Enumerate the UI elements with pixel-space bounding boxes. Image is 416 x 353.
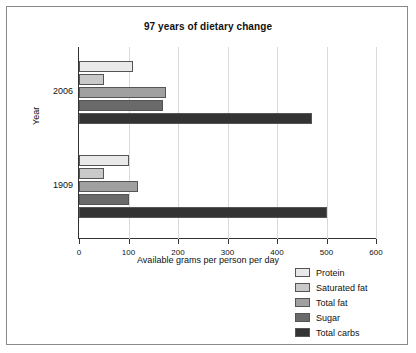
legend-label: Protein xyxy=(316,268,345,278)
legend-item[interactable]: Sugar xyxy=(295,310,368,325)
plot-area: 0100200300400500600 20061909 xyxy=(79,47,376,239)
bar xyxy=(79,61,133,72)
x-tick xyxy=(376,239,377,244)
legend-label: Sugar xyxy=(316,313,340,323)
bar xyxy=(79,194,129,205)
legend-swatch xyxy=(295,313,310,322)
x-tick xyxy=(277,239,278,244)
gridline xyxy=(376,47,377,239)
bar xyxy=(79,207,327,218)
legend-label: Total carbs xyxy=(316,328,360,338)
legend-swatch xyxy=(295,328,310,337)
legend-label: Saturated fat xyxy=(316,283,368,293)
x-tick xyxy=(228,239,229,244)
x-tick xyxy=(178,239,179,244)
x-tick-label: 500 xyxy=(320,248,333,257)
legend-item[interactable]: Saturated fat xyxy=(295,280,368,295)
bar xyxy=(79,74,104,85)
legend-swatch xyxy=(295,283,310,292)
category-label: 2006 xyxy=(27,86,73,96)
x-tick-label: 600 xyxy=(369,248,382,257)
x-tick xyxy=(129,239,130,244)
legend-label: Total fat xyxy=(316,298,348,308)
legend-item[interactable]: Protein xyxy=(295,265,368,280)
bar xyxy=(79,113,312,124)
x-tick xyxy=(79,239,80,244)
y-axis-label: Year xyxy=(31,107,41,125)
bar xyxy=(79,155,129,166)
legend-swatch xyxy=(295,268,310,277)
x-tick-label: 200 xyxy=(171,248,184,257)
x-tick-label: 100 xyxy=(122,248,135,257)
x-tick-label: 300 xyxy=(221,248,234,257)
category-label: 1909 xyxy=(27,180,73,190)
bar xyxy=(79,168,104,179)
x-tick-label: 0 xyxy=(77,248,81,257)
x-tick xyxy=(327,239,328,244)
gridline xyxy=(327,47,328,239)
legend-item[interactable]: Total carbs xyxy=(295,325,368,340)
bar xyxy=(79,181,138,192)
legend-swatch xyxy=(295,298,310,307)
chart-title: 97 years of dietary change xyxy=(7,21,409,32)
bar xyxy=(79,87,166,98)
chart-legend: ProteinSaturated fatTotal fatSugarTotal … xyxy=(295,265,368,340)
x-tick-label: 400 xyxy=(270,248,283,257)
x-axis-label: Available grams per person per day xyxy=(7,255,409,265)
bar xyxy=(79,100,163,111)
chart-frame: 97 years of dietary change Year Availabl… xyxy=(6,6,408,345)
legend-item[interactable]: Total fat xyxy=(295,295,368,310)
